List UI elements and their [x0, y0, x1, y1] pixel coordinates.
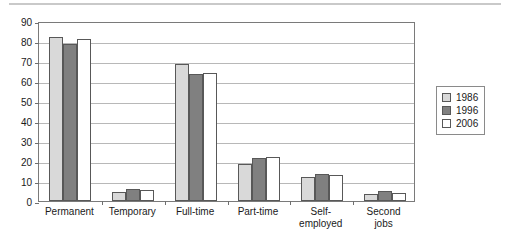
- chart-legend: 198619962006: [436, 86, 485, 135]
- bar: [266, 157, 280, 201]
- bar-group: [175, 23, 217, 201]
- x-axis-label: Self- employed: [299, 206, 342, 230]
- bar: [378, 191, 392, 201]
- bar: [203, 73, 217, 201]
- bar: [140, 190, 154, 201]
- bar: [77, 39, 91, 201]
- legend-item: 2006: [442, 117, 478, 130]
- y-axis-tick-label: 10: [21, 178, 32, 188]
- legend-swatch-icon: [442, 93, 451, 102]
- bar: [329, 175, 343, 201]
- plot-area: 0102030405060708090: [38, 22, 415, 202]
- bar: [126, 189, 140, 201]
- bar: [392, 193, 406, 201]
- bar-group: [301, 23, 343, 201]
- y-axis-tick: [35, 203, 39, 204]
- bar: [112, 192, 126, 201]
- x-axis-tick: [165, 201, 166, 205]
- y-axis-tick-label: 30: [21, 138, 32, 148]
- y-axis-tick-label: 90: [21, 18, 32, 28]
- legend-swatch-icon: [442, 106, 451, 115]
- bar-group: [112, 23, 154, 201]
- y-axis-tick-label: 60: [21, 78, 32, 88]
- bar: [175, 64, 189, 201]
- bar: [189, 74, 203, 201]
- bar: [238, 164, 252, 201]
- bar: [63, 44, 77, 201]
- bar: [364, 194, 378, 201]
- y-axis-tick-label: 0: [26, 198, 32, 208]
- x-axis-label: Full-time: [176, 206, 214, 218]
- y-axis-tick-label: 20: [21, 158, 32, 168]
- x-axis-tick: [228, 201, 229, 205]
- x-axis-tick: [102, 201, 103, 205]
- x-axis-labels: PermanentTemporaryFull-timePart-timeSelf…: [38, 206, 415, 246]
- y-axis-tick-label: 80: [21, 38, 32, 48]
- x-axis-tick: [290, 201, 291, 205]
- legend-item-label: 1996: [456, 106, 478, 116]
- x-axis-label: Permanent: [45, 206, 94, 218]
- legend-item-label: 1986: [456, 93, 478, 103]
- x-axis-label: Second jobs: [367, 206, 401, 230]
- bars-group: [39, 23, 414, 201]
- bar: [301, 177, 315, 201]
- bar-group: [364, 23, 406, 201]
- bar-group: [238, 23, 280, 201]
- x-axis-label: Temporary: [109, 206, 156, 218]
- legend-item: 1996: [442, 104, 478, 117]
- bar: [49, 37, 63, 201]
- legend-item: 1986: [442, 91, 478, 104]
- legend-swatch-icon: [442, 119, 451, 128]
- y-axis-tick-label: 70: [21, 58, 32, 68]
- top-divider-rule: [9, 3, 501, 5]
- bar-chart-figure: 0102030405060708090 PermanentTemporaryFu…: [0, 0, 509, 250]
- bar: [252, 158, 266, 201]
- y-axis-tick-label: 50: [21, 98, 32, 108]
- legend-item-label: 2006: [456, 119, 478, 129]
- bar: [315, 174, 329, 201]
- bar-group: [49, 23, 91, 201]
- x-axis-label: Part-time: [238, 206, 279, 218]
- y-axis-tick-label: 40: [21, 118, 32, 128]
- x-axis-tick: [353, 201, 354, 205]
